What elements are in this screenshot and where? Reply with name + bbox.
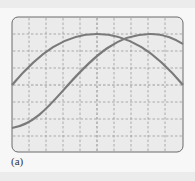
figure-label: (a): [11, 155, 23, 167]
oscilloscope-screen: [0, 0, 195, 181]
